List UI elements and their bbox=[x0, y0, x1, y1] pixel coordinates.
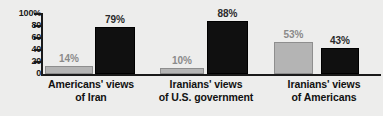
category-label-2: Iranians' views of U.S. government bbox=[144, 78, 268, 104]
y-tick-60: 60 bbox=[0, 37, 41, 39]
bar-value-group2-series2: 88% bbox=[207, 9, 248, 19]
bar-value-group1-series1: 14% bbox=[45, 54, 93, 64]
y-tick-0: 0 bbox=[0, 74, 41, 76]
bar-chart-figure: 100% 80 60 40 20 0 14% 79% 10 bbox=[0, 0, 383, 116]
y-tick-100: 100% bbox=[0, 13, 41, 15]
plot-area: 100% 80 60 40 20 0 14% 79% 10 bbox=[0, 0, 383, 116]
x-axis-line bbox=[41, 74, 381, 76]
bar-group2-series1 bbox=[160, 68, 204, 74]
bar-value-group2-series1: 10% bbox=[160, 56, 204, 66]
bar-value-group3-series2: 43% bbox=[321, 36, 359, 46]
y-tick-label-0: 0 bbox=[7, 69, 41, 78]
bar-group3-series2 bbox=[321, 48, 359, 74]
y-axis-line bbox=[41, 13, 43, 75]
bar-group3-series1 bbox=[274, 42, 313, 74]
y-tick-80: 80 bbox=[0, 25, 41, 27]
bar-group1-series2 bbox=[95, 27, 135, 74]
bar-value-group1-series2: 79% bbox=[95, 15, 135, 25]
y-tick-20: 20 bbox=[0, 61, 41, 63]
bar-group2-series2 bbox=[207, 21, 248, 74]
category-label-1: Americans' views of Iran bbox=[36, 78, 146, 104]
y-tick-40: 40 bbox=[0, 49, 41, 51]
bar-value-group3-series1: 53% bbox=[274, 30, 313, 40]
bar-group1-series1 bbox=[45, 66, 93, 74]
category-label-3: Iranians' views of Americans bbox=[268, 78, 380, 104]
